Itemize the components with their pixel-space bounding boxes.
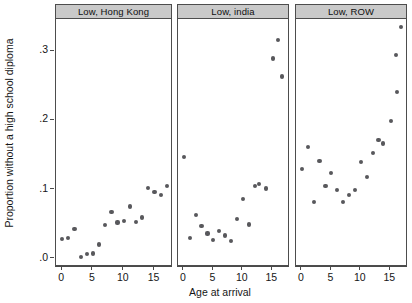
x-tick-mark [330, 266, 331, 270]
x-tick-mark [271, 266, 272, 270]
data-point [134, 220, 138, 224]
data-point [109, 210, 113, 214]
chart-panel: Low, india [177, 4, 289, 266]
data-point [306, 145, 310, 149]
data-point [115, 220, 119, 224]
data-point [323, 184, 327, 188]
y-tick-mark [50, 188, 54, 189]
y-tick-mark [50, 119, 54, 120]
x-axis-line [55, 266, 172, 267]
x-tick-label: 15 [383, 271, 395, 284]
y-tick-mark [50, 50, 54, 51]
data-point [97, 242, 101, 246]
data-point [335, 188, 339, 192]
data-point [241, 197, 245, 201]
x-tick-mark [359, 266, 360, 270]
data-point [182, 155, 186, 159]
data-point [188, 236, 192, 240]
data-point [128, 204, 132, 208]
chart-panel: Low, ROW [295, 4, 407, 266]
x-axis-line [295, 266, 407, 267]
data-point [165, 184, 169, 188]
panel-header-2: Low, india [177, 4, 289, 19]
x-axis-line [177, 266, 289, 267]
x-tick-mark [182, 266, 183, 270]
x-axis: 051015 [295, 266, 407, 286]
data-point [253, 184, 257, 188]
data-point [211, 238, 215, 242]
data-point [122, 219, 126, 223]
x-tick-label: 5 [89, 271, 95, 284]
data-point [271, 56, 275, 60]
data-point [217, 229, 221, 233]
panel-plot-area [55, 19, 172, 266]
data-point [91, 251, 95, 255]
x-tick-label: 10 [236, 271, 248, 284]
data-point [60, 237, 64, 241]
scatter-figure: Proportion without a high school diploma… [0, 0, 412, 303]
data-point [371, 151, 375, 155]
x-tick-mark [91, 266, 92, 270]
data-point [381, 141, 385, 145]
y-tick-label: .2 [39, 112, 48, 125]
x-tick-mark [122, 266, 123, 270]
data-point [389, 119, 393, 123]
data-point [317, 159, 321, 163]
data-point [264, 186, 268, 190]
data-point [312, 200, 316, 204]
data-point [395, 90, 399, 94]
data-point [347, 193, 351, 197]
panel-header-1: Low, Hong Kong [55, 4, 172, 19]
data-point [205, 231, 209, 235]
data-point [276, 38, 280, 42]
data-point [394, 53, 398, 57]
x-tick-label: 0 [298, 271, 304, 284]
data-point [300, 167, 304, 171]
x-tick-mark [300, 266, 301, 270]
y-tick-mark [50, 257, 54, 258]
y-axis-label-container: Proportion without a high school diploma [0, 0, 18, 265]
data-point [365, 175, 369, 179]
data-point [103, 223, 107, 227]
x-tick-mark [389, 266, 390, 270]
x-axis-label-container: Age at arrival [0, 286, 412, 298]
data-point [329, 171, 333, 175]
data-point [359, 160, 363, 164]
data-point [229, 239, 233, 243]
data-point [159, 193, 163, 197]
y-tick-label: .3 [39, 43, 48, 56]
x-tick-label: 5 [327, 271, 333, 284]
x-axis: 051015 [177, 266, 289, 286]
data-point [66, 236, 70, 240]
chart-panel: Low, Hong Kong [55, 4, 172, 266]
x-axis: 051015 [55, 266, 172, 286]
data-point [146, 186, 150, 190]
panel-plot-area [177, 19, 289, 266]
y-tick-label: .1 [39, 182, 48, 195]
data-point [247, 222, 251, 226]
data-point [140, 215, 144, 219]
x-tick-label: 5 [209, 271, 215, 284]
data-point [199, 224, 203, 228]
panel-plot-area [295, 19, 407, 266]
x-tick-label: 10 [354, 271, 366, 284]
x-tick-label: 15 [148, 271, 160, 284]
x-tick-label: 0 [180, 271, 186, 284]
data-point [79, 255, 83, 259]
data-point [341, 200, 345, 204]
x-axis-label: Age at arrival [189, 286, 251, 298]
x-tick-mark [61, 266, 62, 270]
data-point [376, 138, 380, 142]
data-point [72, 227, 76, 231]
x-tick-mark [212, 266, 213, 270]
data-point [353, 188, 357, 192]
data-point [399, 25, 403, 29]
data-point [194, 213, 198, 217]
x-tick-label: 15 [265, 271, 277, 284]
x-tick-mark [241, 266, 242, 270]
x-tick-mark [153, 266, 154, 270]
x-tick-label: 10 [117, 271, 129, 284]
data-point [235, 217, 239, 221]
x-tick-label: 0 [58, 271, 64, 284]
y-tick-label: .0 [39, 251, 48, 264]
